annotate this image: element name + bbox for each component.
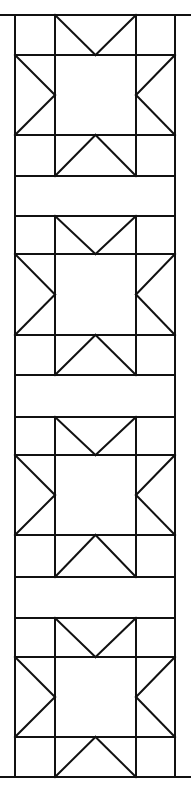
star-point-line (55, 135, 96, 176)
star-point-line (15, 295, 55, 336)
star-point-line (55, 335, 96, 375)
star-point-line (15, 495, 55, 535)
star-point-line (136, 697, 175, 737)
star-point-line (136, 295, 175, 336)
star-point-line (55, 216, 96, 254)
star-point-line (96, 335, 137, 375)
star-point-line (15, 254, 55, 295)
star-point-line (96, 15, 137, 55)
star-point-line (136, 455, 175, 495)
star-point-line (55, 618, 96, 657)
star-point-line (15, 55, 55, 95)
star-point-line (15, 455, 55, 495)
star-point-line (96, 737, 137, 777)
star-point-line (136, 254, 175, 295)
star-point-line (55, 417, 96, 455)
star-point-line (96, 135, 137, 176)
star-point-line (96, 535, 137, 577)
star-point-line (136, 657, 175, 697)
star-point-line (136, 95, 175, 135)
star-point-line (96, 417, 137, 455)
star-point-line (55, 15, 96, 55)
star-point-line (15, 95, 55, 135)
star-point-line (96, 216, 137, 254)
star-point-line (15, 657, 55, 697)
quilt-diagram (0, 0, 191, 792)
star-point-line (15, 697, 55, 737)
star-point-line (136, 495, 175, 535)
star-point-line (55, 535, 96, 577)
star-point-line (96, 618, 137, 657)
star-point-line (136, 55, 175, 95)
star-point-line (55, 737, 96, 777)
